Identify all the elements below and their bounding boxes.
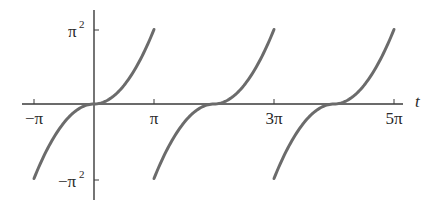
x-tick-label-5pi: 5π	[385, 109, 403, 128]
y-tick-label-neg-pi2-exponent: 2	[79, 168, 85, 180]
y-tick-label-neg-pi2: −π	[58, 172, 77, 191]
curve-series	[34, 30, 394, 179]
x-tick-label-neg-pi: −π	[25, 109, 44, 128]
chart: −π π 3π 5π π 2 −π 2 t	[0, 0, 440, 207]
y-tick-label-pi2-exponent: 2	[79, 18, 85, 30]
x-tick-label-3pi: 3π	[265, 109, 283, 128]
x-tick-label-pi: π	[150, 109, 159, 128]
y-tick-label-pi2: π	[68, 22, 77, 41]
x-axis-label: t	[415, 92, 421, 111]
